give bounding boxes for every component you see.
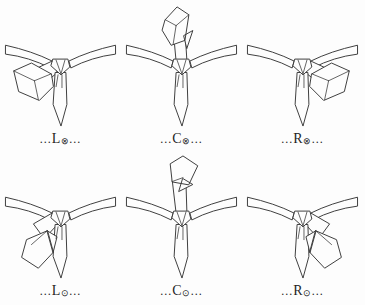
tie-move-cell-L-out: ...L⊗...: [0, 0, 121, 152]
ellipsis-after: ...: [191, 132, 203, 146]
tie-move-cell-C-in: ...C⊙...: [121, 152, 242, 304]
move-letter: L: [52, 131, 61, 146]
ellipsis-before: ...: [281, 284, 293, 298]
tie-diagram-L-in: [0, 152, 121, 282]
narrow-end: [295, 225, 309, 278]
ellipsis-after: ...: [312, 132, 324, 146]
tie-move-cell-R-out: ...R⊗...: [242, 0, 363, 152]
ellipsis-after: ...: [69, 284, 81, 298]
ellipsis-after: ...: [191, 284, 203, 298]
move-label-R-out: ...R⊗...: [281, 132, 323, 146]
wide-end-blade: [306, 231, 341, 268]
ellipsis-before: ...: [160, 284, 172, 298]
circled-dot-icon: ⊙: [303, 288, 312, 298]
move-label-L-in: ...L⊙...: [40, 284, 82, 298]
move-letter: R: [293, 131, 302, 146]
wide-end-blade: [22, 231, 57, 268]
narrow-end: [53, 225, 67, 278]
move-letter: L: [52, 283, 61, 298]
circled-times-icon: ⊗: [182, 136, 191, 146]
ellipsis-after: ...: [312, 284, 324, 298]
circled-dot-icon: ⊙: [60, 288, 69, 298]
narrow-end: [174, 73, 188, 126]
move-label-L-out: ...L⊗...: [40, 132, 82, 146]
ellipsis-before: ...: [160, 132, 172, 146]
move-label-C-out: ...C⊗...: [160, 132, 202, 146]
move-letter: R: [293, 283, 302, 298]
tie-diagram-L-out: [0, 0, 121, 130]
tie-move-cell-R-in: ...R⊙...: [242, 152, 363, 304]
tie-move-cell-C-out: ...C⊗...: [121, 0, 242, 152]
tie-diagram-R-in: [242, 152, 363, 282]
ellipsis-after: ...: [69, 132, 81, 146]
ellipsis-before: ...: [40, 132, 52, 146]
narrow-end: [174, 225, 188, 278]
move-label-R-in: ...R⊙...: [281, 284, 323, 298]
tie-diagram-C-out: [121, 0, 242, 130]
wide-end-blade: [162, 7, 193, 48]
tie-diagram-C-in: [121, 152, 242, 282]
narrow-end: [53, 73, 67, 126]
tie-move-cell-L-in: ...L⊙...: [0, 152, 121, 304]
ellipsis-before: ...: [40, 284, 52, 298]
move-letter: C: [172, 131, 181, 146]
move-label-C-in: ...C⊙...: [160, 284, 202, 298]
ellipsis-before: ...: [281, 132, 293, 146]
narrow-end: [295, 73, 309, 126]
tie-moves-figure: ...L⊗... ...C⊗... ...R⊗...: [0, 0, 365, 305]
circled-times-icon: ⊗: [60, 136, 69, 146]
move-letter: C: [172, 283, 181, 298]
circled-times-icon: ⊗: [303, 136, 312, 146]
circled-dot-icon: ⊙: [182, 288, 191, 298]
tie-diagram-R-out: [242, 0, 363, 130]
